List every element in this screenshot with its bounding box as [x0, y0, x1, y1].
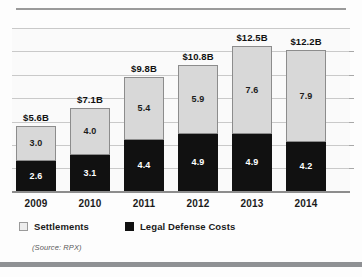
x-axis-label-2012: 2012 [178, 198, 218, 209]
chart-legend: Settlements Legal Defense Costs [19, 221, 235, 232]
bar-segment-defense-2009[interactable]: 2.6 [16, 161, 56, 191]
bar-value-label-settlements-2010: 4.0 [83, 127, 96, 136]
bar-segment-defense-2012[interactable]: 4.9 [178, 134, 218, 191]
legend-item-settlements[interactable]: Settlements [19, 221, 89, 232]
bar-total-label-2011: $9.8B [131, 63, 157, 74]
bar-segment-settlements-2013[interactable]: 7.6 [232, 46, 272, 134]
bar-series-container: $5.6B 3.0 2.6 $7.1B 4.0 3.1 $9.8B 5.4 [12, 28, 350, 191]
legend-label-settlements: Settlements [34, 221, 89, 232]
settlements-swatch-icon [19, 222, 28, 231]
bottom-divider-rule [0, 262, 362, 267]
bar-value-label-settlements-2011: 5.4 [137, 104, 150, 113]
bar-value-label-defense-2014: 4.2 [299, 162, 312, 171]
x-axis-baseline [12, 191, 350, 193]
bar-total-label-2010: $7.1B [77, 94, 103, 105]
bar-group-2010[interactable]: $7.1B 4.0 3.1 [70, 108, 110, 191]
bar-value-label-settlements-2014: 7.9 [299, 92, 312, 101]
x-axis-labels: 2009 2010 2011 2012 2013 2014 [12, 198, 350, 212]
bar-group-2011[interactable]: $9.8B 5.4 4.4 [124, 77, 164, 191]
x-axis-label-2013: 2013 [232, 198, 272, 209]
bar-value-label-settlements-2012: 5.9 [191, 95, 204, 104]
x-axis-label-2014: 2014 [286, 198, 326, 209]
bar-segment-defense-2010[interactable]: 3.1 [70, 155, 110, 191]
x-axis-label-2011: 2011 [124, 198, 164, 209]
bar-group-2014[interactable]: $12.2B 7.9 4.2 [286, 50, 326, 191]
x-axis-label-2010: 2010 [70, 198, 110, 209]
x-axis-label-2009: 2009 [16, 198, 56, 209]
bar-value-label-defense-2011: 4.4 [137, 161, 150, 170]
bar-value-label-defense-2012: 4.9 [191, 158, 204, 167]
bar-value-label-defense-2013: 4.9 [245, 158, 258, 167]
bar-total-label-2014: $12.2B [290, 36, 321, 47]
legend-label-legal-defense-costs: Legal Defense Costs [140, 221, 235, 232]
legend-item-legal-defense-costs[interactable]: Legal Defense Costs [125, 221, 235, 232]
source-note: (Source: RPX) [32, 243, 82, 252]
bar-segment-settlements-2011[interactable]: 5.4 [124, 77, 164, 140]
bar-value-label-defense-2010: 3.1 [83, 169, 96, 178]
top-divider-rule [16, 8, 346, 10]
bar-group-2012[interactable]: $10.8B 5.9 4.9 [178, 65, 218, 191]
bar-segment-defense-2011[interactable]: 4.4 [124, 140, 164, 191]
bar-group-2009[interactable]: $5.6B 3.0 2.6 [16, 126, 56, 191]
bar-segment-settlements-2012[interactable]: 5.9 [178, 65, 218, 134]
bar-group-2013[interactable]: $12.5B 7.6 4.9 [232, 46, 272, 191]
bar-value-label-settlements-2009: 3.0 [29, 139, 42, 148]
defense-swatch-icon [125, 222, 134, 231]
stacked-bar-chart: $5.6B 3.0 2.6 $7.1B 4.0 3.1 $9.8B 5.4 [12, 28, 350, 193]
bar-segment-settlements-2009[interactable]: 3.0 [16, 126, 56, 161]
bar-value-label-settlements-2013: 7.6 [245, 86, 258, 95]
bar-segment-defense-2013[interactable]: 4.9 [232, 134, 272, 191]
bar-total-label-2009: $5.6B [23, 112, 49, 123]
bar-total-label-2013: $12.5B [236, 32, 267, 43]
bar-segment-settlements-2014[interactable]: 7.9 [286, 50, 326, 142]
bar-segment-defense-2014[interactable]: 4.2 [286, 142, 326, 191]
bar-value-label-defense-2009: 2.6 [29, 172, 42, 181]
bar-total-label-2012: $10.8B [182, 51, 213, 62]
bar-segment-settlements-2010[interactable]: 4.0 [70, 108, 110, 155]
